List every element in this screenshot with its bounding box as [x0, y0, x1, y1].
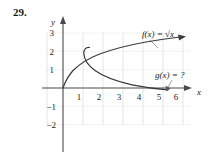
- x-tick-6: 6: [174, 92, 179, 102]
- problem-number: 29.: [13, 6, 27, 18]
- graph-svg: 1 2 3 4 5 6 3 2 1 −1 −2 y x f(x) = √x g(…: [0, 0, 211, 160]
- x-tick-1: 1: [77, 92, 82, 102]
- y-tick-neg2: −2: [46, 120, 56, 130]
- y-tick-neg1: −1: [46, 102, 56, 112]
- y-tick-1: 1: [50, 65, 55, 75]
- x-tick-3: 3: [117, 92, 122, 102]
- x-tick-labels: 1 2 3 4 5 6: [77, 92, 179, 102]
- y-axis-arrowhead: [60, 16, 66, 24]
- x-axis-label: x: [196, 87, 201, 97]
- y-tick-labels: 3 2 1 −1 −2: [46, 28, 56, 130]
- curve-f-sqrt-x: [63, 37, 180, 88]
- g-function-label: g(x) = ?: [155, 70, 185, 80]
- x-axis-arrowhead: [184, 85, 192, 91]
- curve-f-arrowhead: [178, 35, 186, 41]
- y-tick-2: 2: [50, 47, 55, 57]
- x-tick-4: 4: [137, 92, 142, 102]
- y-axis-label: y: [50, 17, 55, 27]
- x-tick-5: 5: [157, 92, 162, 102]
- g-label-leader-arrowhead: [166, 86, 171, 92]
- y-tick-3: 3: [50, 28, 55, 38]
- curve-g-unknown: [84, 47, 168, 89]
- f-function-label: f(x) = √x: [142, 29, 174, 39]
- x-tick-2: 2: [97, 92, 102, 102]
- figure-container: 29. 1: [0, 0, 211, 160]
